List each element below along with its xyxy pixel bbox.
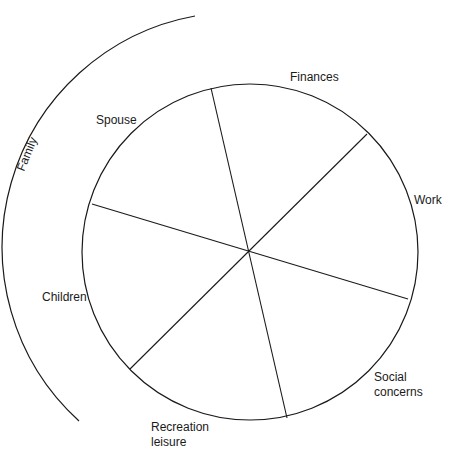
label-spouse: Spouse: [96, 113, 137, 127]
label-children: Children: [42, 290, 87, 304]
label-concerns: concerns: [374, 385, 423, 399]
label-family: Family: [14, 135, 40, 173]
label-social: Social: [374, 370, 407, 384]
label-leisure: leisure: [151, 435, 187, 449]
family-outer-arc: [2, 16, 195, 421]
spoke-spouse-finances: [211, 88, 287, 418]
label-work: Work: [414, 193, 443, 207]
spoke-spouse-children: [92, 204, 408, 299]
life-wheel-diagram: Family Spouse Finances Work Social conce…: [0, 0, 453, 456]
label-finances: Finances: [290, 70, 339, 84]
label-recreation: Recreation: [151, 420, 209, 434]
